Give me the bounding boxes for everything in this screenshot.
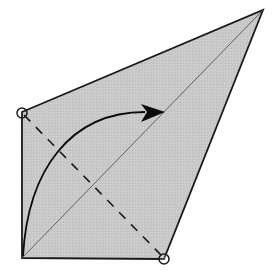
corner-marker-bottom-right [159,254,169,264]
origami-diagram [0,0,273,280]
